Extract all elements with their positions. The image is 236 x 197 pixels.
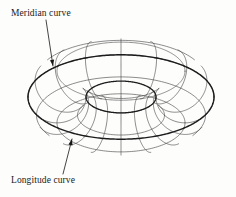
- torus-wireframe: [0, 0, 236, 197]
- torus-figure: Meridian curve Longitude curve: [0, 0, 236, 197]
- meridian-curve-label: Meridian curve: [11, 8, 71, 18]
- torus-mesh: [28, 39, 214, 155]
- longitude-curve-label: Longitude curve: [11, 175, 75, 185]
